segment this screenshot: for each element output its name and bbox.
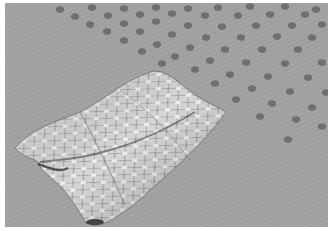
scene-canvas [5,3,328,227]
rendered-scene [5,3,328,227]
